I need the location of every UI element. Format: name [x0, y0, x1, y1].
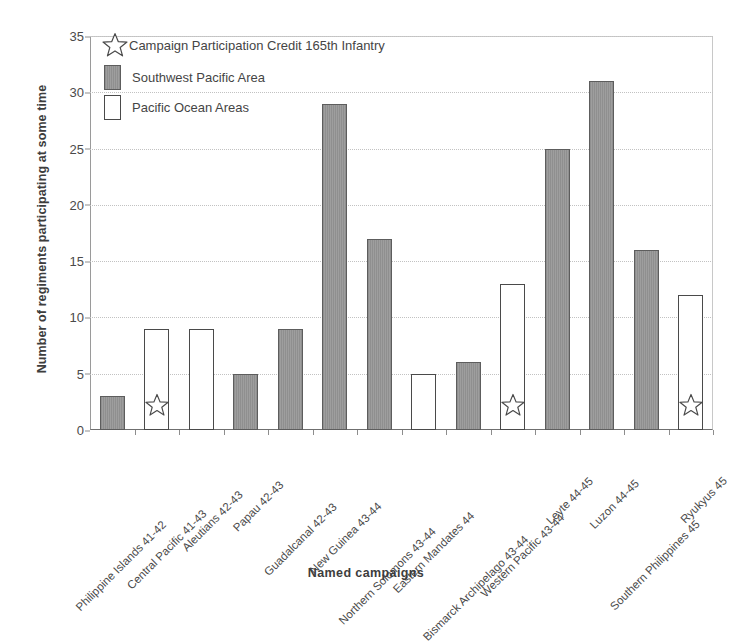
bar-pacific-ocean-areas [189, 329, 214, 430]
star-icon [101, 31, 129, 59]
legend-item-southwest-pacific-area: Southwest Pacific Area [104, 62, 444, 92]
bar-pacific-ocean-areas [411, 374, 436, 430]
bar-southwest-pacific-area [589, 81, 614, 430]
bar-group [589, 36, 614, 430]
bar-southwest-pacific-area [456, 362, 481, 430]
y-axis-title: Number of regiments participating at som… [35, 59, 49, 399]
bar-group [500, 36, 525, 430]
y-axis-tick-label: 5 [40, 366, 84, 381]
star-icon [678, 392, 704, 418]
bar-southwest-pacific-area [367, 239, 392, 430]
y-axis-tick-label: 30 [40, 85, 84, 100]
y-axis-tick-label: 10 [40, 310, 84, 325]
bar-southwest-pacific-area [634, 250, 659, 430]
bar-group [678, 36, 703, 430]
bar-southwest-pacific-area [233, 374, 258, 430]
x-axis-category-label: Leyte 44-45 [544, 475, 595, 526]
legend-swatch-southwest-pacific-area [104, 65, 121, 90]
legend-item-campaign-credit: Campaign Participation Credit 165th Infa… [104, 28, 444, 62]
star-icon [500, 392, 526, 418]
legend-label-campaign-credit: Campaign Participation Credit 165th Infa… [129, 38, 385, 53]
legend-item-pacific-ocean-areas: Pacific Ocean Areas [104, 92, 444, 122]
bar-group [545, 36, 570, 430]
y-axis-tick-label: 35 [40, 29, 84, 44]
y-axis-tick-mark [85, 430, 90, 431]
legend-label-pacific-ocean-areas: Pacific Ocean Areas [132, 100, 249, 115]
bar-southwest-pacific-area [100, 396, 125, 430]
x-axis-title: Named campaigns [0, 566, 732, 580]
legend-swatch-pacific-ocean-areas [104, 95, 121, 120]
legend-label-southwest-pacific-area: Southwest Pacific Area [132, 70, 265, 85]
x-axis-category-label: Papau 42-43 [230, 479, 285, 534]
x-axis-category-label: Ryukyus 45 [678, 474, 729, 525]
y-axis-tick-label: 25 [40, 141, 84, 156]
bar-group [634, 36, 659, 430]
y-axis-tick-label: 20 [40, 197, 84, 212]
bar-southwest-pacific-area [545, 149, 570, 430]
bar-group [456, 36, 481, 430]
x-axis-tick-mark [713, 430, 714, 435]
bar-southwest-pacific-area [278, 329, 303, 430]
star-icon [144, 392, 170, 418]
chart-legend: Campaign Participation Credit 165th Infa… [104, 28, 444, 122]
bar-southwest-pacific-area [322, 104, 347, 430]
y-axis-tick-label: 0 [40, 423, 84, 438]
x-axis-category-labels: Philippine Islands 41-42Central Pacific … [90, 432, 713, 552]
x-axis-category-label: Luzon 44-45 [587, 477, 641, 531]
y-axis-tick-label: 15 [40, 254, 84, 269]
